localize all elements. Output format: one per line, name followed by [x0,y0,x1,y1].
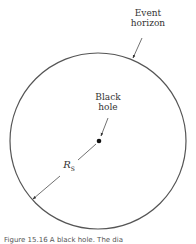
radius-arrow [33,176,60,199]
schwarzschild-radius-label: RS [58,160,80,174]
radius-symbol: R [63,159,71,170]
event-horizon-label-line2: horizon [120,18,176,28]
black-hole-label-line2: hole [90,102,126,112]
black-hole-label-line1: Black [90,92,126,102]
event-horizon-label-line1: Event [120,8,176,18]
black-hole-point [97,139,102,144]
black-hole-label: Black hole [90,92,126,112]
radius-subscript: S [71,165,75,172]
event-horizon-arrow [133,38,142,58]
figure-caption: Figure 15.16 A black hole. The dia [4,236,123,244]
black-hole-arrow [101,118,108,136]
event-horizon-label: Event horizon [120,8,176,28]
radius-line-inner [78,144,96,160]
